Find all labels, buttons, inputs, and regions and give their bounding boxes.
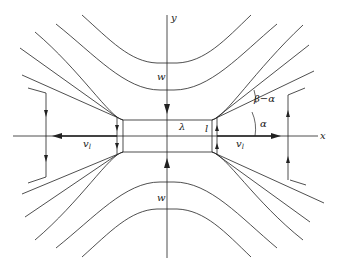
streamline (20, 48, 118, 118)
alpha-label: α (260, 118, 267, 129)
streamline (167, 182, 277, 248)
streamline (216, 45, 309, 118)
l-label: l (205, 123, 208, 134)
streamline (22, 75, 123, 120)
v-right-label: vl (236, 138, 244, 151)
figure-caption (4, 266, 334, 275)
streamline (212, 152, 303, 240)
streamline (56, 24, 167, 90)
x-axis-label: x (320, 130, 326, 141)
streamline (22, 152, 123, 194)
beta-minus-alpha-label: β−α (253, 93, 275, 104)
streamline (35, 152, 123, 240)
w-label-top: w (157, 71, 166, 82)
streamline (212, 152, 324, 203)
flow-diagram: y x w w λ l vl vl α β−α (0, 0, 337, 275)
streamline (82, 209, 167, 257)
v-left-label: vl (83, 138, 91, 151)
streamline (167, 15, 251, 63)
w-label-bottom: w (157, 192, 166, 203)
streamline (56, 182, 167, 248)
streamline (167, 24, 277, 90)
y-axis-label: y (170, 12, 177, 23)
streamline (82, 15, 167, 63)
streamline (216, 154, 310, 222)
streamline (167, 209, 251, 257)
lambda-label: λ (178, 121, 185, 132)
streamline (35, 32, 123, 120)
